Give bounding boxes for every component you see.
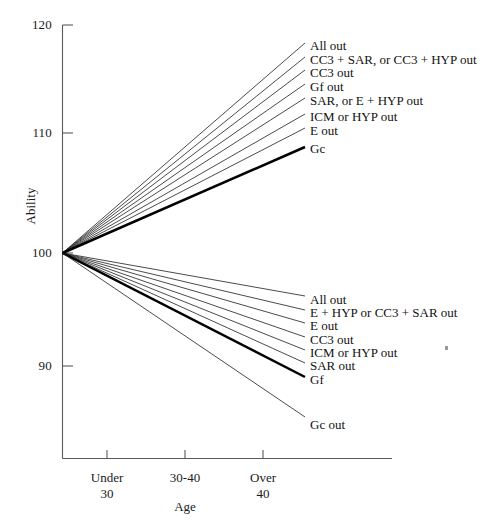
x-axis-title: Age (155, 499, 215, 515)
series-label-upper-sar-e-hyp: SAR, or E + HYP out (310, 94, 423, 107)
y-tick-label-100: 100 (20, 245, 52, 261)
fan-line-upper-2 (63, 57, 306, 253)
fan-line-upper-5 (63, 98, 306, 253)
y-tick-label-110: 110 (20, 125, 52, 141)
chart-figure: 120 110 100 90 Ability Under 30 30-40 Ov… (0, 0, 494, 521)
series-label-upper-icm-hyp: ICM or HYP out (310, 110, 397, 123)
fan-line-lower-6 (63, 253, 306, 363)
fan-line-upper-4 (63, 84, 306, 253)
series-label-lower-gf: Gf (310, 373, 324, 386)
fan-line-upper-3 (63, 70, 306, 253)
x-tick-label-under-30-line1: Under (91, 470, 124, 485)
chart-plot-area (0, 0, 494, 521)
fan-line-upper-7 (63, 128, 306, 253)
x-tick-label-over-40: Over 40 (233, 470, 293, 503)
upper-fan-group (63, 43, 306, 253)
x-tick-label-over-40-line2: 40 (257, 486, 270, 501)
x-tick-label-under-30: Under 30 (77, 470, 137, 503)
x-tick-label-30-40: 30-40 (155, 470, 215, 486)
series-label-upper-all-out: All out (310, 39, 346, 52)
y-tick-label-90: 90 (20, 358, 52, 374)
fan-line-lower-7-gf (63, 253, 306, 377)
series-label-lower-gc-out: Gc out (310, 418, 345, 431)
fan-line-upper-6 (63, 114, 306, 253)
series-label-upper-cc3-out: CC3 out (310, 66, 354, 79)
series-label-upper-e-out: E out (310, 124, 338, 137)
x-tick-label-over-40-line1: Over (250, 470, 276, 485)
fan-line-upper-1 (63, 43, 306, 253)
y-axis-title: Ability (23, 176, 39, 236)
series-label-lower-sar-out: SAR out (310, 359, 355, 372)
series-label-upper-gf-out: Gf out (310, 80, 344, 93)
x-tick-label-under-30-line2: 30 (101, 486, 114, 501)
fan-line-lower-3 (63, 253, 306, 323)
y-tick-label-120: 120 (20, 17, 52, 33)
series-label-upper-gc: Gc (310, 142, 325, 155)
fan-line-upper-8-gc (63, 147, 306, 253)
lower-fan-group (63, 253, 306, 417)
fan-line-lower-1 (63, 253, 306, 296)
scan-artifact-speck (445, 346, 448, 350)
series-label-lower-e-out: E out (310, 319, 338, 332)
fan-line-lower-4 (63, 253, 306, 337)
